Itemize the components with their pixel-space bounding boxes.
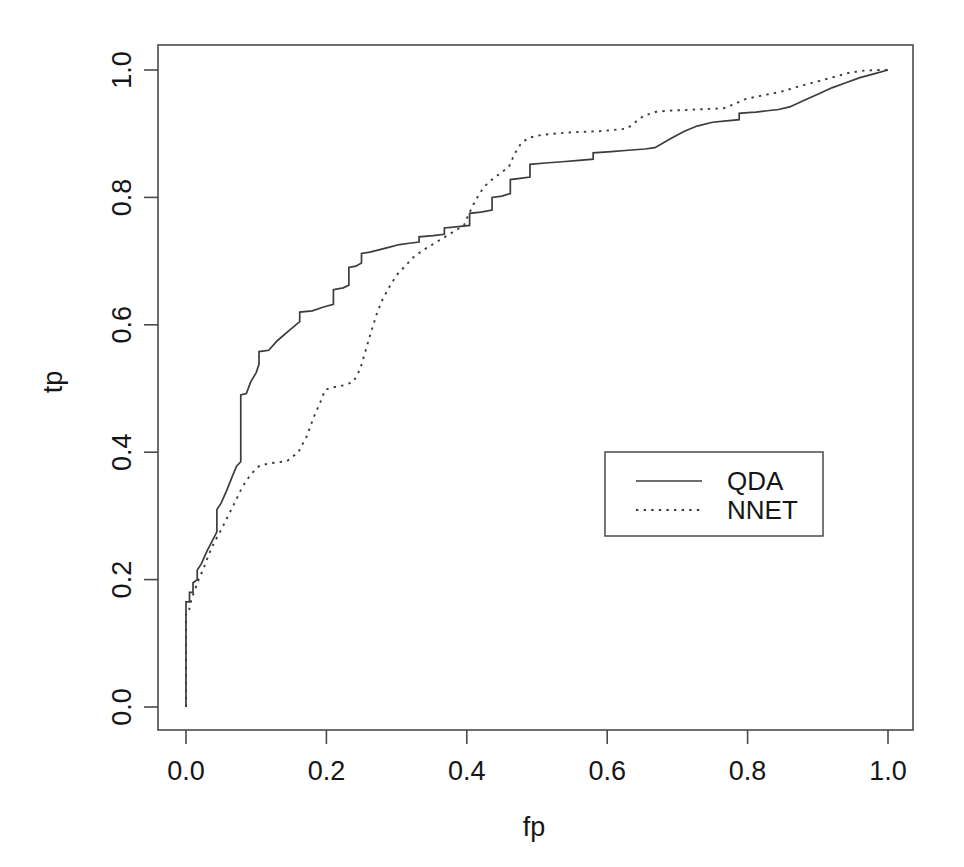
- y-axis-title: tp: [38, 371, 68, 394]
- roc-curve-qda: [186, 70, 888, 707]
- y-tick-label: 0.2: [107, 561, 137, 599]
- y-tick-label: 0.6: [107, 306, 137, 344]
- roc-curve-nnet: [186, 70, 888, 707]
- legend-label-qda: QDA: [727, 466, 784, 496]
- x-axis-tick-labels: 0.00.20.40.60.81.0: [167, 756, 907, 786]
- y-tick-label: 0.0: [107, 688, 137, 726]
- y-axis-tick-labels: 0.00.20.40.60.81.0: [107, 51, 137, 726]
- x-axis-title: fp: [523, 812, 546, 842]
- x-tick-label: 0.0: [167, 756, 205, 786]
- legend: QDA NNET: [605, 452, 823, 536]
- roc-series-group: [186, 70, 888, 707]
- roc-plot-figure: 0.00.20.40.60.81.0 0.00.20.40.60.81.0 fp…: [0, 0, 964, 867]
- y-axis-ticks: [144, 70, 158, 707]
- plot-frame: [158, 45, 913, 730]
- roc-chart-canvas: 0.00.20.40.60.81.0 0.00.20.40.60.81.0 fp…: [0, 0, 964, 867]
- x-tick-label: 1.0: [869, 756, 907, 786]
- y-tick-label: 0.4: [107, 433, 137, 471]
- x-tick-label: 0.6: [588, 756, 626, 786]
- y-tick-label: 0.8: [107, 179, 137, 217]
- x-tick-label: 0.2: [308, 756, 346, 786]
- x-tick-label: 0.8: [729, 756, 767, 786]
- legend-label-nnet: NNET: [727, 495, 798, 525]
- y-tick-label: 1.0: [107, 51, 137, 89]
- x-tick-label: 0.4: [448, 756, 486, 786]
- x-axis-ticks: [186, 730, 888, 744]
